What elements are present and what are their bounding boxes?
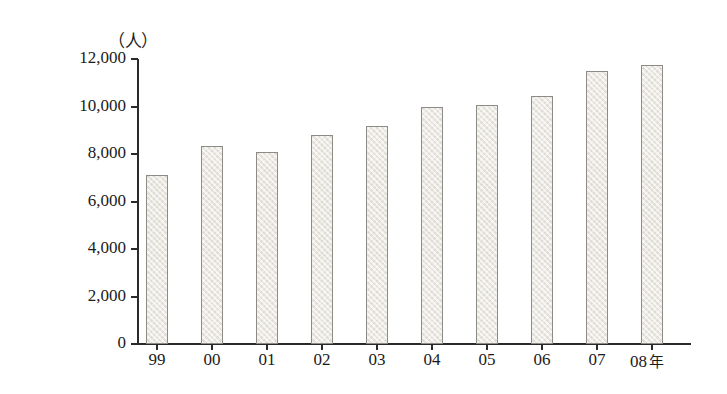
- x-tick-label: 02: [292, 350, 352, 370]
- y-tick-label: 10,000: [36, 96, 126, 116]
- y-tick-mark: [131, 106, 138, 108]
- y-tick-label: 8,000: [36, 143, 126, 163]
- x-tick-label: 99: [127, 350, 187, 370]
- x-tick-label: 01: [237, 350, 297, 370]
- bar: [256, 152, 278, 344]
- y-tick-mark: [131, 248, 138, 250]
- bar: [531, 96, 553, 344]
- x-tick-label: 03: [347, 350, 407, 370]
- x-tick-label: 00: [182, 350, 242, 370]
- bar: [201, 146, 223, 344]
- y-tick-mark: [131, 296, 138, 298]
- y-tick-label: 4,000: [36, 238, 126, 258]
- y-tick-mark: [131, 343, 138, 345]
- y-tick-label: 0: [36, 333, 126, 353]
- y-tick-label: 12,000: [36, 48, 126, 68]
- bar: [311, 135, 333, 344]
- chart-page: （人） 02,0004,0006,0008,00010,00012,000 99…: [0, 0, 727, 394]
- bar: [421, 107, 443, 345]
- y-tick-label: 6,000: [36, 191, 126, 211]
- y-tick-label: 2,000: [36, 286, 126, 306]
- bar: [146, 175, 168, 344]
- bar: [586, 71, 608, 344]
- bar: [641, 65, 663, 344]
- y-tick-mark: [131, 201, 138, 203]
- x-axis-suffix: 年: [647, 353, 664, 371]
- bar: [476, 105, 498, 344]
- x-tick-label: 06: [512, 350, 572, 370]
- y-tick-mark: [131, 58, 138, 60]
- x-tick-label: 08年: [630, 350, 690, 372]
- x-tick-label: 05: [457, 350, 517, 370]
- x-tick-label: 04: [402, 350, 462, 370]
- bar-chart: （人） 02,0004,0006,0008,00010,00012,000 99…: [0, 0, 727, 394]
- y-tick-mark: [131, 153, 138, 155]
- bar: [366, 126, 388, 345]
- x-tick-label: 07: [567, 350, 627, 370]
